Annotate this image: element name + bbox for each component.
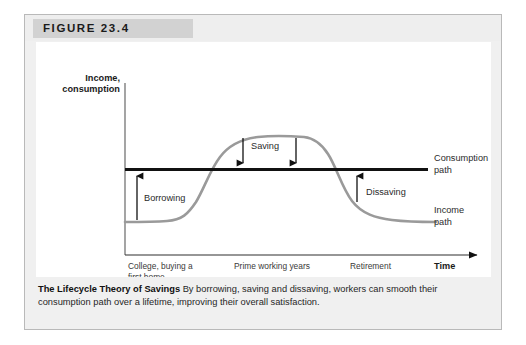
figure-header-band: FIGURE 23.4 [25, 15, 501, 41]
y-axis-label-line2: consumption [62, 84, 120, 94]
income-path-label-line2: path [434, 217, 452, 227]
income-path-curve [125, 136, 436, 222]
figure-card: FIGURE 23.4 [24, 14, 502, 330]
chart-plot-panel: Income, consumption Borrowing Saving Dis… [36, 42, 491, 277]
x-tick-retirement: Retirement [350, 261, 392, 271]
lifecycle-savings-chart: Income, consumption Borrowing Saving Dis… [36, 42, 491, 277]
figure-number-label: FIGURE 23.4 [43, 22, 130, 34]
figure-caption-title: The Lifecycle Theory of Savings [38, 284, 180, 294]
consumption-path-label-line1: Consumption [434, 153, 488, 163]
y-axis-label-line1: Income, [85, 73, 120, 83]
figure-caption-area: The Lifecycle Theory of Savings By borro… [36, 283, 491, 323]
saving-label: Saving [251, 141, 279, 151]
x-tick-college-line2: first home [128, 272, 165, 277]
figure-caption: The Lifecycle Theory of Savings By borro… [38, 283, 488, 309]
borrowing-label: Borrowing [144, 193, 185, 203]
dissaving-label: Dissaving [366, 187, 406, 197]
x-tick-prime-working-years: Prime working years [234, 261, 310, 271]
consumption-path-label-line2: path [434, 165, 452, 175]
income-path-label-line1: Income [434, 205, 464, 215]
x-axis-label-time: Time [434, 261, 455, 271]
x-tick-college-line1: College, buying a [128, 261, 193, 271]
